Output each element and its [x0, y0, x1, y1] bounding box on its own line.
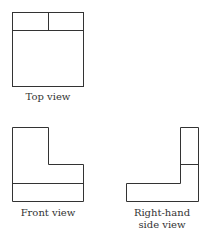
side-view-drawing [127, 128, 199, 202]
orthographic-drawing [0, 0, 213, 239]
side-view-label-line2: side view [122, 219, 202, 231]
top-view-label: Top view [12, 91, 84, 103]
top-view-drawing [13, 13, 84, 87]
front-view-label: Front view [8, 207, 88, 219]
side-view-label-line1: Right-hand [122, 207, 202, 219]
front-view-drawing [13, 128, 84, 202]
